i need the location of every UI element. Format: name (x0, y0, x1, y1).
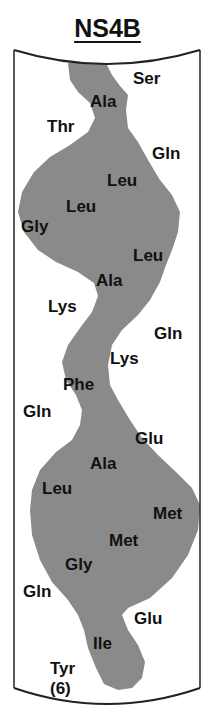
residue-label: Met (153, 505, 182, 522)
residue-label: Leu (133, 247, 163, 264)
residue-label: Phe (63, 376, 94, 393)
residue-label: Glu (135, 430, 163, 447)
residue-label: Gln (23, 583, 51, 600)
residue-label: Tyr (50, 660, 75, 677)
residue-label: Thr (47, 118, 74, 135)
residue-label: Leu (107, 172, 137, 189)
residue-label: Met (109, 532, 138, 549)
residue-label: Gly (21, 218, 48, 235)
residue-label: Gly (65, 556, 92, 573)
residue-label: Gln (23, 403, 51, 420)
residue-label: Ser (133, 70, 160, 87)
residue-label: Leu (42, 480, 72, 497)
residue-label: Ala (90, 93, 116, 110)
residue-label: Gln (152, 145, 180, 162)
residue-label: Ile (93, 635, 112, 652)
cylinder-top-edge (14, 50, 200, 64)
residue-label: Glu (134, 610, 162, 627)
residue-label: Lys (48, 298, 77, 315)
residue-label: Ala (90, 455, 116, 472)
residue-label: Lys (110, 350, 139, 367)
residue-label: Leu (66, 198, 96, 215)
residue-label: Gln (154, 325, 182, 342)
residue-count-label: (6) (50, 680, 71, 697)
cylinder-bottom-edge (14, 688, 200, 704)
residue-label: Ala (96, 272, 122, 289)
